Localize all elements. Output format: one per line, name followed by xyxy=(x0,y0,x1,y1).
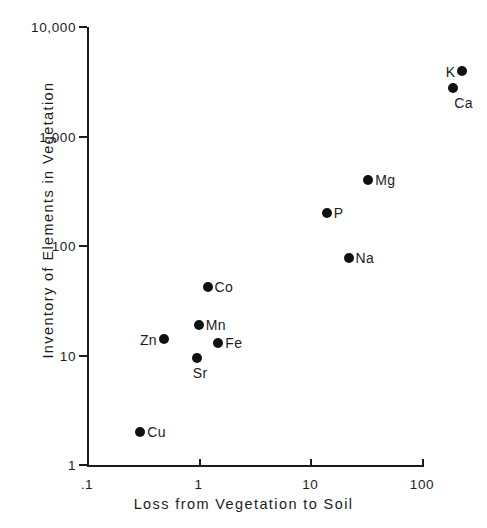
y-tick-label: 10 xyxy=(60,348,76,363)
data-point-marker xyxy=(135,427,145,437)
data-point-label: Zn xyxy=(140,333,157,347)
y-tick-label: 1 xyxy=(68,458,76,473)
data-point-marker xyxy=(363,175,373,185)
data-point-label: P xyxy=(334,206,344,220)
data-point-marker xyxy=(203,282,213,292)
data-point-label: Mg xyxy=(375,173,395,187)
data-point-marker xyxy=(322,208,332,218)
x-tick-mark xyxy=(422,459,424,467)
data-point-marker xyxy=(344,253,354,263)
scatter-chart-figure: 1101001,00010,000 .1110100 CuZnSrMnFeCoN… xyxy=(0,0,487,528)
x-tick-label: 1 xyxy=(195,477,203,492)
x-tick-label: 100 xyxy=(410,477,434,492)
data-point-label: Cu xyxy=(147,425,166,439)
x-tick-label: .1 xyxy=(81,477,93,492)
data-point-label: Fe xyxy=(225,336,242,350)
data-point-marker xyxy=(159,334,169,344)
data-point-label: Co xyxy=(215,280,234,294)
x-axis-title: Loss from Vegetation to Soil xyxy=(0,496,487,512)
x-tick-mark xyxy=(199,459,201,467)
data-point-label: K xyxy=(446,65,456,79)
data-point-label: Ca xyxy=(454,96,473,110)
data-point-label: Na xyxy=(356,251,375,265)
data-point-marker xyxy=(192,353,202,363)
plot-area: 1101001,00010,000 .1110100 CuZnSrMnFeCoN… xyxy=(87,27,422,466)
x-tick-mark xyxy=(310,459,312,467)
y-axis-line xyxy=(87,27,89,467)
data-point-label: Mn xyxy=(206,318,226,332)
y-tick-mark xyxy=(79,355,87,357)
y-tick-mark xyxy=(79,245,87,247)
x-axis-line xyxy=(87,465,423,467)
data-point-marker xyxy=(448,83,458,93)
data-point-marker xyxy=(213,338,223,348)
y-tick-mark xyxy=(79,464,87,466)
y-tick-mark xyxy=(79,136,87,138)
data-point-marker xyxy=(457,66,467,76)
data-point-label: Sr xyxy=(193,366,208,380)
data-point-marker xyxy=(194,320,204,330)
y-tick-mark xyxy=(79,26,87,28)
y-axis-title: Inventory of Elements in Vegetation xyxy=(40,10,56,430)
x-tick-mark xyxy=(87,459,89,467)
x-tick-label: 10 xyxy=(302,477,318,492)
